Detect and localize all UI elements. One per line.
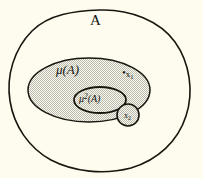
point-x1-label: •x1: [122, 67, 134, 80]
diagram-canvas: [0, 0, 203, 178]
inner-set-arg: (A): [88, 93, 101, 104]
outer-set-label: A: [90, 13, 101, 28]
inner-set-label: μ2(A): [79, 94, 100, 104]
middle-set-label: μ(A): [56, 63, 79, 76]
point-x1-subscript: 1: [130, 73, 133, 80]
point-x2-subscript: 2: [128, 115, 131, 121]
point-x2-label: x2: [124, 112, 131, 122]
set-diagram-figure: A μ(A) μ2(A) •x1 x2: [0, 0, 203, 178]
